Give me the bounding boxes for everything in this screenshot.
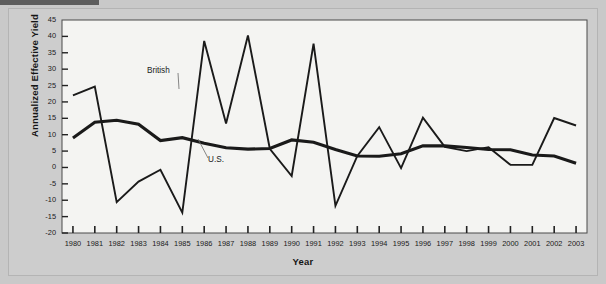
x-tick-label: 1982 xyxy=(106,239,128,248)
y-tick-label: -10 xyxy=(26,195,56,204)
y-tick-label: -20 xyxy=(26,228,56,237)
x-tick-label: 1989 xyxy=(259,239,281,248)
x-tick-label: 2001 xyxy=(521,239,543,248)
x-tick-label: 1987 xyxy=(215,239,237,248)
x-tick-label: 1980 xyxy=(62,239,84,248)
x-tick-label: 1988 xyxy=(237,239,259,248)
x-tick-label: 2000 xyxy=(499,239,521,248)
x-axis-title: Year xyxy=(0,256,606,267)
x-tick-label: 1999 xyxy=(478,239,500,248)
figure-page: 454035302520151050-5-10-15-20 1980198119… xyxy=(0,0,606,284)
x-tick-label: 1981 xyxy=(84,239,106,248)
series-label-british: British xyxy=(147,66,170,75)
x-tick-label: 1995 xyxy=(390,239,412,248)
x-tick-label: 1985 xyxy=(171,239,193,248)
x-tick-label: 1992 xyxy=(324,239,346,248)
x-tick-label: 2003 xyxy=(565,239,587,248)
y-tick-label: -15 xyxy=(26,212,56,221)
y-tick-label: 0 xyxy=(26,162,56,171)
x-tick-label: 1993 xyxy=(346,239,368,248)
y-tick-label: -5 xyxy=(26,179,56,188)
x-tick-label: 1997 xyxy=(434,239,456,248)
x-tick-label: 1983 xyxy=(128,239,150,248)
x-tick-label: 1984 xyxy=(149,239,171,248)
x-tick-label: 2002 xyxy=(543,239,565,248)
x-tick-label: 1998 xyxy=(456,239,478,248)
x-tick-label: 1991 xyxy=(303,239,325,248)
series-label-us: U.S. xyxy=(208,155,224,164)
y-tick-label: 5 xyxy=(26,146,56,155)
x-tick-label: 1990 xyxy=(281,239,303,248)
x-tick-label: 1996 xyxy=(412,239,434,248)
y-axis-title: Annualized Effective Yield xyxy=(29,6,40,146)
x-tick-label: 1986 xyxy=(193,239,215,248)
x-tick-label: 1994 xyxy=(368,239,390,248)
